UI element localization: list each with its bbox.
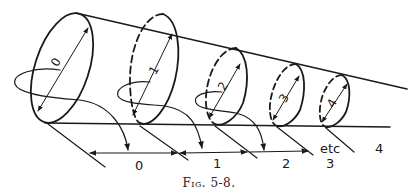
svg-text:2: 2 [282, 156, 290, 171]
circle-1 [118, 14, 202, 148]
svg-text:3: 3 [326, 156, 334, 171]
circle-0 [15, 5, 128, 150]
dimension-line [90, 151, 308, 153]
figure-caption: Fig. 5-8. [0, 176, 418, 190]
top-generator-line [76, 13, 407, 89]
circle-3 [270, 64, 304, 126]
svg-text:0: 0 [135, 158, 143, 173]
svg-text:1: 1 [146, 63, 162, 77]
cone-diagram: 0 1 2 3 4 0 1 2 3 4 etc [0, 0, 418, 195]
svg-text:4: 4 [375, 141, 383, 156]
svg-text:etc: etc [320, 141, 340, 156]
svg-text:2: 2 [215, 79, 231, 93]
svg-text:1: 1 [213, 156, 221, 171]
svg-text:3: 3 [276, 91, 292, 105]
svg-text:0: 0 [48, 55, 64, 69]
circle-2 [195, 48, 264, 150]
